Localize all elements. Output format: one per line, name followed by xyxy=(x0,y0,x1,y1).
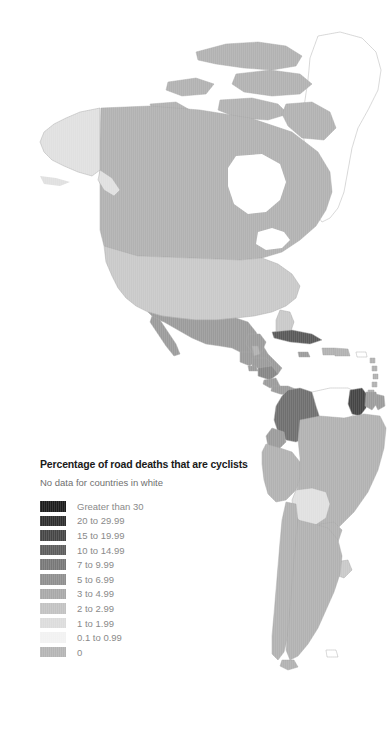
legend-row: Greater than 30 xyxy=(40,499,270,514)
legend-swatch xyxy=(40,647,66,658)
legend-subtitle: No data for countries in white xyxy=(40,477,270,488)
legend-label: 20 to 29.99 xyxy=(77,515,125,526)
legend-swatch xyxy=(40,632,66,643)
legend-label: 0 xyxy=(77,647,82,658)
legend-swatch xyxy=(40,516,66,527)
legend-row: 0.1 to 0.99 xyxy=(40,630,270,645)
region-haiti xyxy=(322,348,336,355)
legend-label: 15 to 19.99 xyxy=(77,530,125,541)
region-puerto-rico xyxy=(356,352,367,357)
legend-swatch xyxy=(40,559,66,570)
region-el-salvador xyxy=(248,366,258,371)
legend-row: 3 to 4.99 xyxy=(40,587,270,602)
legend-swatch xyxy=(40,589,66,600)
legend-label: 1 to 1.99 xyxy=(77,618,114,629)
legend-swatch xyxy=(40,545,66,556)
legend-label: 5 to 6.99 xyxy=(77,574,114,585)
legend-row: 1 to 1.99 xyxy=(40,616,270,631)
legend-label: 3 to 4.99 xyxy=(77,588,114,599)
legend-row: 10 to 14.99 xyxy=(40,543,270,558)
legend-swatch xyxy=(40,501,66,512)
region-dominican-republic xyxy=(334,348,350,356)
legend-label: 7 to 9.99 xyxy=(77,559,114,570)
legend-row: 5 to 6.99 xyxy=(40,572,270,587)
region-falkland-islands xyxy=(326,650,338,657)
legend-swatch xyxy=(40,530,66,541)
legend-swatch xyxy=(40,603,66,614)
legend-items: Greater than 3020 to 29.9915 to 19.9910 … xyxy=(40,499,270,660)
legend-label: 2 to 2.99 xyxy=(77,603,114,614)
legend-row: 2 to 2.99 xyxy=(40,601,270,616)
legend-label: 10 to 14.99 xyxy=(77,545,125,556)
legend-label: Greater than 30 xyxy=(77,501,144,512)
legend-row: 7 to 9.99 xyxy=(40,557,270,572)
legend-row: 0 xyxy=(40,645,270,660)
legend-swatch xyxy=(40,574,66,585)
legend-row: 15 to 19.99 xyxy=(40,528,270,543)
map-legend: Percentage of road deaths that are cycli… xyxy=(40,458,270,660)
region-jamaica xyxy=(298,352,310,357)
legend-title: Percentage of road deaths that are cycli… xyxy=(40,458,270,470)
legend-label: 0.1 to 0.99 xyxy=(77,632,122,643)
legend-swatch xyxy=(40,618,66,629)
legend-row: 20 to 29.99 xyxy=(40,514,270,529)
